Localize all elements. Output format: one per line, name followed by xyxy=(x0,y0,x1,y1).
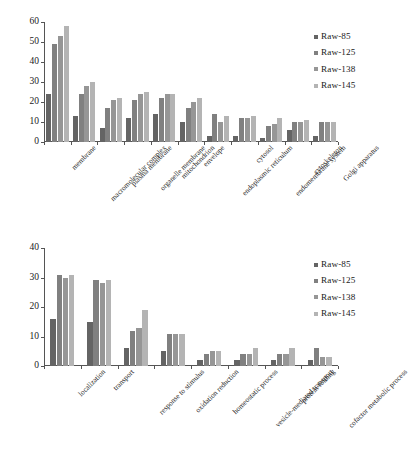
category-label: localization xyxy=(77,368,107,398)
bar xyxy=(247,354,252,366)
bar xyxy=(277,354,282,366)
y-tick-mark xyxy=(41,62,44,63)
bar-group xyxy=(46,22,69,142)
bar xyxy=(161,351,166,366)
bar xyxy=(170,94,175,142)
bar-group xyxy=(87,248,112,366)
bar-group xyxy=(126,22,149,142)
legend-label: Raw-145 xyxy=(321,309,355,318)
bar xyxy=(73,116,78,142)
y-tick-label: 40 xyxy=(30,57,40,67)
y-tick-label: 60 xyxy=(30,17,40,27)
bar-group xyxy=(73,22,96,142)
category-label: cytoskeleton xyxy=(312,144,344,176)
legend-swatch xyxy=(314,279,318,283)
category-label: membrane xyxy=(70,144,97,171)
legend-item: Raw-125 xyxy=(314,276,355,285)
bar xyxy=(277,118,282,142)
bar xyxy=(210,351,215,366)
legend-label: Raw-85 xyxy=(321,260,351,269)
bar xyxy=(325,122,330,142)
legend-top: Raw-85Raw-125Raw-138Raw-145 xyxy=(314,32,355,98)
bar xyxy=(240,354,245,366)
bar xyxy=(314,348,319,366)
plot-area-top: 0102030405060 xyxy=(44,22,338,142)
y-tick-mark xyxy=(41,22,44,23)
bar xyxy=(106,280,111,366)
bar-group xyxy=(197,248,222,366)
y-tick-mark xyxy=(41,122,44,123)
category-label: transport xyxy=(111,368,135,392)
legend-label: Raw-125 xyxy=(321,276,355,285)
plot-area-bottom: 010203040 xyxy=(44,248,338,366)
y-tick-mark xyxy=(41,278,44,279)
y-tick-mark xyxy=(41,248,44,249)
chart-panel-cellular-component: 0102030405060 membranemacromolecular com… xyxy=(0,0,406,229)
legend-swatch xyxy=(314,295,318,299)
y-tick-label: 30 xyxy=(30,273,40,283)
bar xyxy=(100,128,105,142)
bar xyxy=(289,348,294,366)
bar-groups-bottom xyxy=(44,248,338,366)
x-tick-mark xyxy=(338,366,339,369)
bar xyxy=(58,36,63,142)
legend-item: Raw-145 xyxy=(314,309,355,318)
y-tick-mark xyxy=(41,82,44,83)
legend-swatch xyxy=(314,51,318,55)
bar-group xyxy=(271,248,296,366)
bar xyxy=(251,116,256,142)
bar xyxy=(283,354,288,366)
bar xyxy=(79,94,84,142)
bar xyxy=(138,94,143,142)
y-tick-label: 0 xyxy=(34,137,39,147)
bar xyxy=(117,98,122,142)
category-labels-top: membranemacromolecular complexplasma mem… xyxy=(44,144,338,214)
y-tick-label: 0 xyxy=(34,361,39,371)
bar xyxy=(105,108,110,142)
bar-group xyxy=(260,22,283,142)
bar xyxy=(197,98,202,142)
bar xyxy=(111,100,116,142)
legend-swatch xyxy=(314,35,318,39)
y-tick-label: 10 xyxy=(30,117,40,127)
legend-item: Raw-85 xyxy=(314,260,355,269)
bar xyxy=(298,122,303,142)
bar xyxy=(136,328,141,366)
legend-item: Raw-125 xyxy=(314,48,355,57)
y-tick-label: 30 xyxy=(30,77,40,87)
y-tick-mark xyxy=(41,337,44,338)
legend-label: Raw-138 xyxy=(321,293,355,302)
legend-label: Raw-85 xyxy=(321,32,351,41)
category-label: cofactor metabolic process xyxy=(347,368,408,429)
bar xyxy=(239,118,244,142)
bar xyxy=(93,280,98,366)
bar xyxy=(64,26,69,142)
y-tick-label: 40 xyxy=(30,243,40,253)
bar xyxy=(130,331,135,366)
bar xyxy=(272,124,277,142)
bar xyxy=(191,102,196,142)
bar xyxy=(87,322,92,366)
legend-item: Raw-85 xyxy=(314,32,355,41)
bar xyxy=(100,283,105,366)
bar xyxy=(224,116,229,142)
chart-panel-biological-process: 010203040 localizationtransportresponse … xyxy=(0,230,406,459)
legend-swatch xyxy=(314,312,318,316)
bar xyxy=(320,357,325,366)
bar-group xyxy=(99,22,122,142)
y-tick-label: 50 xyxy=(30,37,40,47)
legend-label: Raw-125 xyxy=(321,48,355,57)
bar xyxy=(287,130,292,142)
bar xyxy=(132,100,137,142)
bar xyxy=(304,120,309,142)
bar xyxy=(159,98,164,142)
bar xyxy=(84,86,89,142)
y-tick-label: 20 xyxy=(30,97,40,107)
bar xyxy=(179,334,184,366)
legend-swatch xyxy=(314,84,318,88)
category-labels-bottom: localizationtransportresponse to stimulu… xyxy=(44,368,338,438)
bar xyxy=(144,92,149,142)
y-tick-mark xyxy=(41,102,44,103)
bar-group xyxy=(153,22,176,142)
bar xyxy=(331,122,336,142)
